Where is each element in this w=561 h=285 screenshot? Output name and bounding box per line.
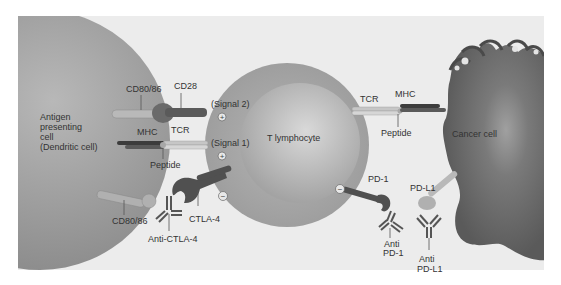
label-ctla4: CTLA-4 bbox=[189, 214, 220, 224]
label-anti-ctla4: Anti-CTLA-4 bbox=[148, 234, 198, 244]
immune-checkpoint-diagram: CD80/86 CD28 (Signal 2) MHC TCR (Signal … bbox=[0, 0, 561, 285]
cancer-cell bbox=[443, 43, 548, 260]
label-cd28: CD28 bbox=[174, 81, 197, 91]
label-anti-pd1: Anti PD-1 bbox=[383, 239, 404, 258]
peptide-dot-left bbox=[160, 142, 166, 148]
svg-text:+: + bbox=[220, 113, 225, 122]
svg-text:−: − bbox=[338, 185, 343, 194]
minus-sign-ctla4: − bbox=[219, 192, 228, 202]
label-peptide-right: Peptide bbox=[381, 128, 412, 138]
label-t-lymphocyte: T lymphocyte bbox=[267, 133, 320, 143]
label-pdl1: PD-L1 bbox=[410, 183, 436, 193]
label-signal-2: (Signal 2) bbox=[211, 99, 250, 109]
minus-sign-pd1: − bbox=[336, 185, 345, 195]
label-mhc-left: MHC bbox=[137, 127, 158, 137]
label-cd80-86-top: CD80/86 bbox=[126, 84, 162, 94]
label-pd1: PD-1 bbox=[368, 174, 389, 184]
label-tcr-left: TCR bbox=[171, 125, 190, 135]
label-signal-1: (Signal 1) bbox=[211, 138, 250, 148]
svg-text:+: + bbox=[220, 152, 225, 161]
label-mhc-right: MHC bbox=[395, 89, 416, 99]
cd28-molecule bbox=[165, 108, 207, 117]
label-cd80-86-bottom: CD80/86 bbox=[112, 216, 148, 226]
label-tcr-right: TCR bbox=[360, 94, 379, 104]
label-peptide-left: Peptide bbox=[150, 160, 181, 170]
label-cancer-cell: Cancer cell bbox=[452, 129, 497, 139]
svg-text:−: − bbox=[221, 192, 226, 201]
